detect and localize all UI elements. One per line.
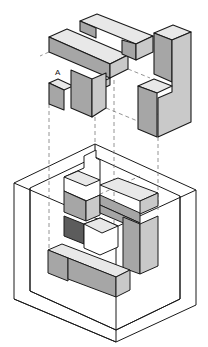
block-face-left <box>123 217 140 274</box>
piece-face-left <box>138 86 157 137</box>
exploded-pieces <box>49 14 191 137</box>
block-face-right <box>140 216 158 274</box>
puzzle-diagram: A <box>0 0 208 347</box>
piece-face-left <box>71 70 92 117</box>
piece-face-right <box>92 73 110 117</box>
upper-left-t-piece <box>49 29 128 117</box>
isometric-drawing <box>0 0 208 347</box>
piece-a-label: A <box>55 68 60 77</box>
piece-face-left <box>154 33 172 82</box>
guide-line <box>128 69 150 78</box>
guide-line <box>40 52 49 56</box>
